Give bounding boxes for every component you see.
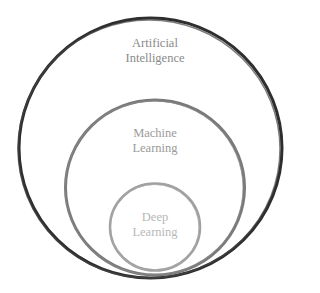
ai-label-line1: Artificial xyxy=(100,36,210,51)
dl-label: Deep Learning xyxy=(100,210,210,240)
ml-label-line2: Learning xyxy=(100,141,210,156)
ai-label-line2: Intelligence xyxy=(100,51,210,66)
ml-label: Machine Learning xyxy=(100,126,210,156)
ml-label-line1: Machine xyxy=(100,126,210,141)
ai-label: Artificial Intelligence xyxy=(100,36,210,66)
dl-label-line1: Deep xyxy=(100,210,210,225)
dl-label-line2: Learning xyxy=(100,225,210,240)
